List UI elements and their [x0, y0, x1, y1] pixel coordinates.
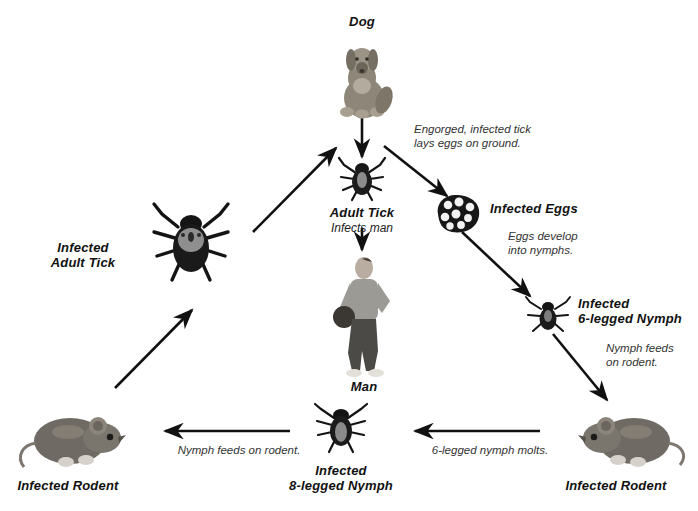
- node-label-adult-tick: Adult Tick: [312, 205, 412, 220]
- node-label-dog: Dog: [312, 14, 412, 29]
- note-six-legged-nymph-molts: 6-legged nymph molts.: [420, 443, 560, 457]
- node-label-infected-eggs: Infected Eggs: [490, 201, 620, 216]
- infected-eggs-illustration: [432, 192, 484, 236]
- note-eggs-develop: Eggs develop into nymphs.: [508, 229, 628, 257]
- note-engorged-lays-eggs: Engorged, infected tick lays eggs on gro…: [414, 122, 574, 150]
- note-nymph-feeds-on-rodent-bottom: Nymph feeds on rodent.: [164, 443, 314, 457]
- man-illustration: [322, 255, 406, 377]
- diagram-canvas: Dog: [0, 0, 698, 511]
- node-label-six-legged-nymph: Infected 6-legged Nymph: [578, 296, 698, 326]
- rodent-right-illustration: [576, 405, 694, 477]
- adult-tick-illustration: [336, 155, 388, 205]
- eight-legged-nymph-illustration: [312, 402, 370, 458]
- arrow-adulttick-to-eggs: [384, 146, 447, 196]
- note-nymph-feeds-on-rodent: Nymph feeds on rodent.: [606, 341, 698, 369]
- rodent-left-illustration: [8, 405, 128, 477]
- node-sublabel-adult-tick: Infects man: [307, 221, 417, 235]
- dog-illustration: [322, 38, 406, 120]
- node-label-man: Man: [314, 379, 414, 394]
- node-label-infected-adult-tick: Infected Adult Tick: [28, 240, 138, 270]
- node-label-rodent-left: Infected Rodent: [0, 478, 138, 493]
- arrow-rodent-left-to-infected-adult: [115, 310, 192, 388]
- infected-adult-tick-illustration: [148, 200, 234, 286]
- node-label-eight-legged-nymph: Infected 8-legged Nymph: [281, 463, 401, 493]
- six-legged-nymph-illustration: [525, 295, 571, 337]
- node-label-rodent-right: Infected Rodent: [546, 478, 686, 493]
- arrow-nymph6-to-rodent-right: [553, 334, 607, 400]
